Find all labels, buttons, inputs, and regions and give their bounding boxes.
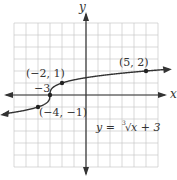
arrow-left-icon — [4, 92, 13, 98]
y-axis-label: y — [78, 0, 86, 14]
arrow-right-icon — [158, 92, 167, 98]
svg-text:y =: y = — [95, 121, 115, 134]
curve-arrow-right-icon — [163, 66, 172, 73]
point-label-5-2: (5, 2) — [119, 56, 149, 69]
x-intercept-label: −3 — [34, 82, 50, 95]
svg-text:x + 3: x + 3 — [131, 121, 160, 134]
equation-label: y = 3 √ x + 3 — [95, 119, 160, 134]
arrow-down-icon — [83, 167, 89, 176]
point-label-neg4-neg1: (−4, −1) — [39, 106, 87, 119]
point-label-neg2-1: (−2, 1) — [26, 67, 65, 80]
y-axis — [83, 12, 89, 176]
graph: y x (5, 2) (−2, 1) (−4, −1) −3 y = 3 √ x… — [0, 0, 177, 180]
x-axis-label: x — [170, 87, 177, 101]
curve-arrow-left-icon — [0, 110, 9, 117]
